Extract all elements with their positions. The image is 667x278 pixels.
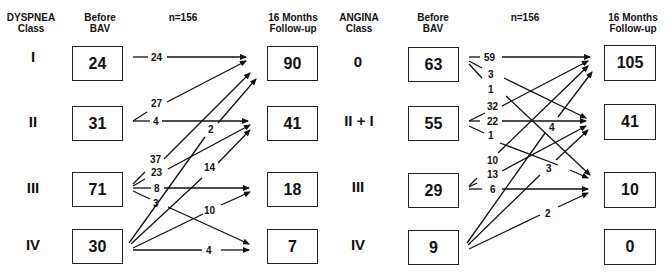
angina-flow-value: 4 bbox=[549, 122, 555, 133]
dyspnea-flow-value: 4 bbox=[153, 116, 159, 127]
dyspnea-flow-value: 10 bbox=[204, 205, 216, 216]
angina-flow-value: 22 bbox=[487, 116, 499, 127]
angina-flow-value: 3 bbox=[488, 69, 494, 80]
dyspnea-flow-value: 14 bbox=[204, 162, 216, 173]
angina-flow-value: 2 bbox=[545, 208, 551, 219]
dyspnea-flow-value: 23 bbox=[151, 167, 163, 178]
angina-flow-arrows: 59 3 1 32 22 1 10 13 6 4 3 2 bbox=[330, 0, 667, 278]
angina-flow-value: 59 bbox=[484, 52, 496, 63]
dyspnea-flow-value: 8 bbox=[154, 183, 160, 194]
dyspnea-flow-arrows: 24 27 4 37 23 8 3 2 14 10 4 bbox=[0, 0, 330, 278]
dyspnea-flow-value: 3 bbox=[153, 198, 159, 209]
angina-flow-value: 13 bbox=[487, 169, 499, 180]
dyspnea-flow-value: 4 bbox=[206, 245, 212, 256]
dyspnea-flow-value: 27 bbox=[151, 98, 163, 109]
angina-flow-value: 6 bbox=[490, 184, 496, 195]
angina-flow-value: 10 bbox=[487, 155, 499, 166]
dyspnea-flow-value: 24 bbox=[151, 52, 163, 63]
angina-flow-value: 32 bbox=[487, 101, 499, 112]
dyspnea-flow-value: 37 bbox=[150, 154, 162, 165]
angina-flow-value: 1 bbox=[488, 84, 494, 95]
angina-flow-value: 3 bbox=[546, 163, 552, 174]
dyspnea-flow-value: 2 bbox=[208, 124, 214, 135]
angina-panel: ANGINAClass BeforeBAV n=156 16 MonthsFol… bbox=[330, 0, 667, 278]
angina-flow-value: 1 bbox=[488, 130, 494, 141]
dyspnea-panel: DYSPNEAClass BeforeBAV n=156 16 MonthsFo… bbox=[0, 0, 330, 278]
